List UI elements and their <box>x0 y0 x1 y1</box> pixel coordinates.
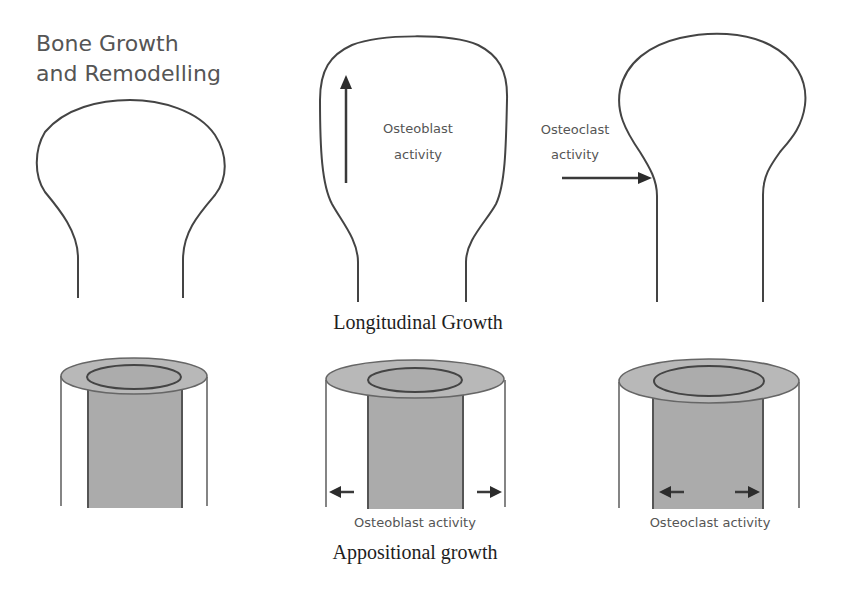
osteoblast-label-line2: activity <box>394 147 442 162</box>
osteoclast-label-line1: Osteoclast <box>541 122 610 137</box>
appositional-cylinder-2: Osteoblast activity <box>326 360 505 530</box>
osteoclast-label-line2: activity <box>551 147 599 162</box>
up-arrow-icon <box>340 75 352 183</box>
longitudinal-bone-1 <box>37 100 225 298</box>
appositional-cylinder-1 <box>61 358 207 508</box>
right-arrow-icon <box>477 486 502 498</box>
appositional-osteoblast-label: Osteoblast activity <box>354 515 476 530</box>
appositional-osteoclast-label: Osteoclast activity <box>650 515 771 530</box>
osteoblast-label-line1: Osteoblast <box>383 121 453 136</box>
appositional-growth-caption: Appositional growth <box>333 541 498 564</box>
left-arrow-icon <box>329 486 354 498</box>
longitudinal-bone-2: Osteoblast activity <box>320 36 507 302</box>
appositional-cylinder-3: Osteoclast activity <box>619 359 799 530</box>
longitudinal-bone-3: Osteoclast activity <box>541 34 806 302</box>
longitudinal-growth-caption: Longitudinal Growth <box>333 311 502 334</box>
right-arrow-icon <box>562 172 652 184</box>
bone-growth-diagram: Bone Growth and Remodelling Osteoblast a… <box>0 0 843 589</box>
diagram-title-line1: Bone Growth <box>36 31 179 56</box>
diagram-title-line2: and Remodelling <box>36 61 221 86</box>
